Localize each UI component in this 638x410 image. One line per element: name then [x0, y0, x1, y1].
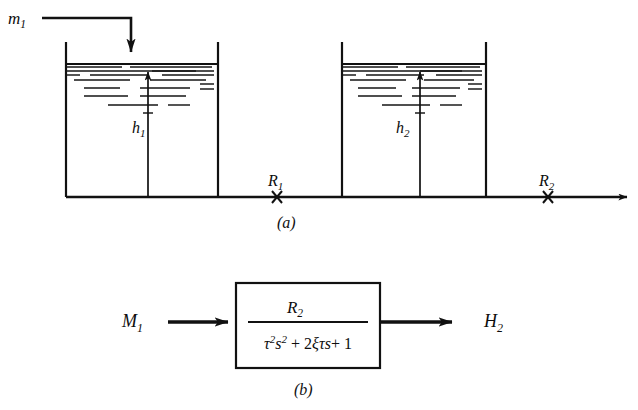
tank-1: h1 — [66, 42, 218, 197]
inlet-label-m1: m1 — [8, 9, 26, 30]
transfer-function-block — [236, 283, 380, 368]
diagram-canvas: m1 h1 — [0, 0, 638, 410]
transfer-function-denominator: τ2s2 + 2ξτs+ 1 — [264, 333, 352, 352]
figure-root: m1 h1 — [0, 0, 638, 410]
resistance-r2: R2 — [538, 172, 555, 203]
tank1-liquid-hatching — [66, 67, 214, 113]
panel-a: m1 h1 — [8, 9, 627, 232]
inlet-stream-m1 — [42, 18, 131, 52]
r1-label: R1 — [267, 172, 283, 192]
panel-b-caption: (b) — [294, 381, 313, 399]
panel-a-caption: (a) — [277, 214, 296, 232]
resistance-r1: R1 — [267, 172, 283, 203]
block-output-label-h2: H2 — [483, 311, 503, 335]
transfer-function-numerator: R2 — [286, 298, 303, 319]
block-input-label-m1: M1 — [121, 311, 143, 335]
inlet-pipe-path — [42, 18, 131, 45]
tank2-level-label-h2: h2 — [396, 119, 410, 139]
tank2-liquid-hatching — [342, 67, 482, 113]
r2-label: R2 — [538, 172, 555, 192]
tank-2: h2 — [342, 42, 486, 197]
tank1-level-label-h1: h1 — [132, 119, 146, 139]
panel-b: M1 R2 τ2s2 + 2ξτs+ 1 H2 (b) — [121, 283, 503, 399]
